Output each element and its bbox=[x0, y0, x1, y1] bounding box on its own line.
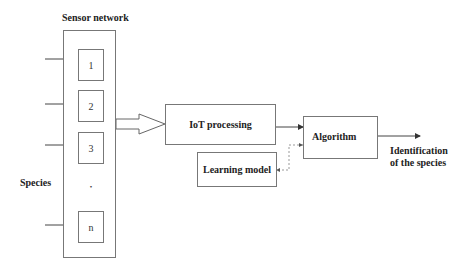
output-label: Identification of the species bbox=[390, 145, 448, 169]
sensor-network-title: Sensor network bbox=[62, 12, 129, 23]
species-label: Species bbox=[20, 177, 51, 188]
sensor-label: 2 bbox=[89, 101, 94, 112]
algorithm-box: Algorithm bbox=[303, 116, 378, 159]
output-label-line2: of the species bbox=[390, 157, 448, 169]
sensor-label: 3 bbox=[89, 143, 94, 154]
block-arrow bbox=[116, 114, 165, 134]
sensor-label: n bbox=[89, 222, 94, 233]
learning-model-box: Learning model bbox=[197, 152, 277, 187]
learning-feedback-dashed bbox=[278, 145, 303, 170]
sensor-label: 1 bbox=[89, 60, 94, 71]
output-label-line1: Identification bbox=[390, 145, 448, 157]
learning-model-label: Learning model bbox=[203, 164, 271, 175]
ellipsis-dot: • bbox=[86, 183, 96, 191]
sensor-box-1: 1 bbox=[78, 49, 104, 81]
algorithm-label: Algorithm bbox=[312, 131, 356, 142]
sensor-box-3: 3 bbox=[78, 132, 104, 164]
sensor-box-n: n bbox=[78, 211, 104, 243]
iot-processing-box: IoT processing bbox=[165, 104, 276, 145]
iot-processing-label: IoT processing bbox=[189, 119, 252, 130]
sensor-box-2: 2 bbox=[78, 90, 104, 122]
